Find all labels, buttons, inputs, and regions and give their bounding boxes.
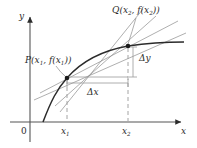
point-label-P-main: P(x xyxy=(25,55,40,65)
point-label-Q-mid: , f(x xyxy=(132,5,150,15)
auxiliary-line-steep-2 xyxy=(60,9,143,112)
y-axis-label: y xyxy=(19,12,24,21)
point-label-P: P(x1, f(x1)) xyxy=(25,56,71,66)
x2-tick-subscript: 2 xyxy=(127,131,131,137)
point-marker-Q xyxy=(126,44,131,49)
x2-tick-label: x2 xyxy=(122,127,131,137)
x1-tick-subscript: 1 xyxy=(66,131,70,137)
x-axis-label: x xyxy=(181,127,186,136)
x1-tick-label: x1 xyxy=(61,127,70,137)
point-label-Q: Q(x2, f(x2)) xyxy=(112,6,160,16)
point-label-Q-end: )) xyxy=(153,5,160,15)
point-marker-P xyxy=(65,76,70,81)
origin-label: 0 xyxy=(21,127,27,136)
diagram-svg xyxy=(0,0,197,148)
point-label-P-mid: , f(x xyxy=(43,55,61,65)
leader-line-Q xyxy=(128,18,136,44)
delta-x-label: Δx xyxy=(87,88,99,97)
figure-canvas: y x 0 x1 x2 P(x1, f(x1)) Q(x2, f(x2)) Δx… xyxy=(0,0,197,148)
point-label-Q-main: Q(x xyxy=(112,5,128,15)
leader-line-P xyxy=(56,66,66,77)
point-label-P-end: )) xyxy=(64,55,71,65)
delta-y-label: Δy xyxy=(139,54,151,63)
